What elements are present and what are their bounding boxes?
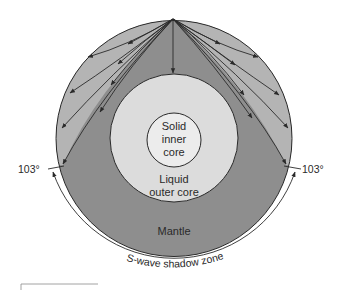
bottom-rule: [21, 284, 98, 290]
outer-core-label-line2: outer core: [149, 186, 199, 198]
left-angle-label: 103°: [18, 163, 40, 175]
right-angle-label: 103°: [302, 163, 324, 175]
inner-core-label-line1: Solid: [162, 120, 186, 132]
s-wave-shadow-zone-diagram: Solid inner core Liquid outer core Mantl…: [0, 0, 344, 290]
mantle-label: Mantle: [157, 225, 190, 237]
inner-core-label-line3: core: [163, 146, 184, 158]
inner-core-label-line2: inner: [162, 133, 187, 145]
outer-core-label-line1: Liquid: [159, 173, 188, 185]
